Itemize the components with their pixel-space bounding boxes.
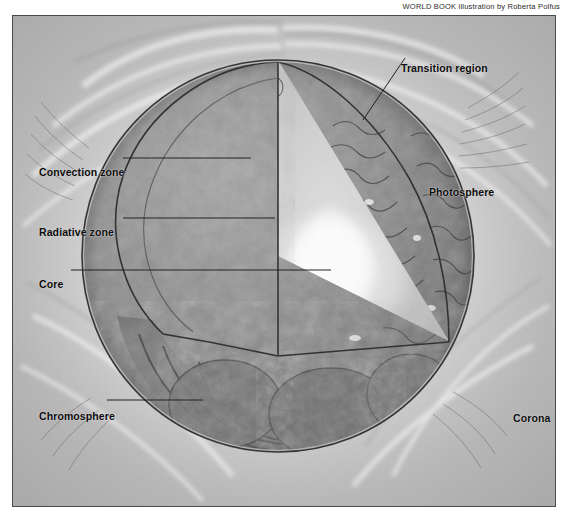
paper-grain [13, 16, 555, 506]
label-photosphere: Photosphere [429, 186, 494, 198]
label-chromosphere: Chromosphere [39, 410, 115, 422]
label-corona: Corona [513, 412, 550, 424]
illustration-page: WORLD BOOK illustration by Roberta Polfu… [0, 0, 568, 523]
label-core: Core [39, 278, 63, 290]
label-radiative-zone: Radiative zone [39, 226, 114, 238]
sun-cutaway-illustration [13, 16, 555, 506]
credit-line: WORLD BOOK illustration by Roberta Polfu… [0, 2, 560, 11]
illustration-frame: Convection zone Radiative zone Core Chro… [12, 15, 556, 507]
label-convection-zone: Convection zone [39, 166, 125, 178]
label-transition-region: Transition region [401, 62, 488, 74]
